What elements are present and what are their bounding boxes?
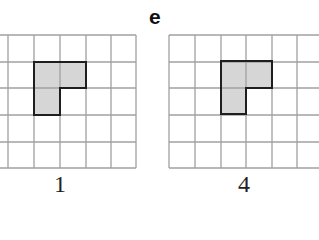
- grid-right: [169, 35, 319, 168]
- caption-left: 1: [45, 171, 75, 197]
- caption-right: 4: [229, 171, 259, 197]
- grid-left: [0, 35, 136, 168]
